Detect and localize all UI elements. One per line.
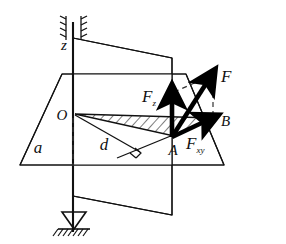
mechanics-diagram: z O A B a d F Fz Fxy (0, 0, 286, 244)
label-distance-d: d (100, 135, 109, 154)
label-force-Fz-sub: z (151, 98, 156, 108)
label-plane-a: a (34, 138, 43, 157)
bottom-bearing-icon (53, 212, 90, 236)
label-axis-z: z (60, 37, 67, 53)
label-point-B: B (221, 113, 230, 129)
label-force-Fxy-sub: xy (195, 145, 204, 155)
label-origin-O: O (57, 107, 68, 123)
label-point-A: A (167, 142, 178, 158)
label-force-Fz-base: F (141, 87, 153, 106)
figure-canvas: z O A B a d F Fz Fxy (0, 0, 286, 244)
label-force-Fxy-base: F (185, 134, 197, 153)
label-force-F: F (220, 67, 232, 86)
